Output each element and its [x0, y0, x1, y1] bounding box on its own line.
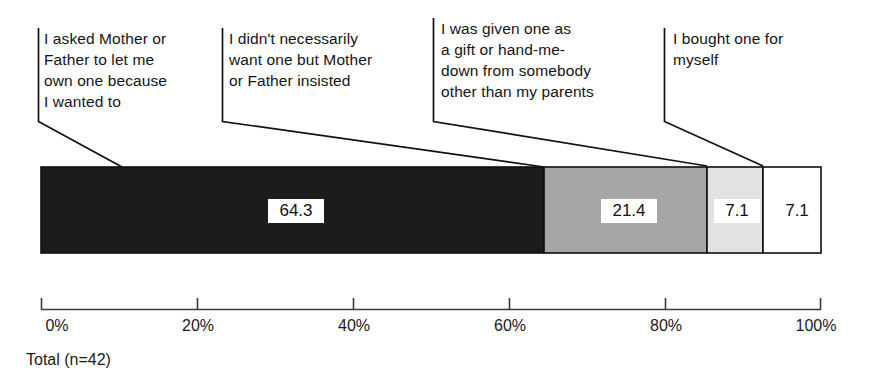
bar-value-3: 7.1	[714, 199, 760, 223]
callout-label-2: I didn't necessarily want one but Mother…	[229, 28, 425, 91]
bar-segments	[41, 167, 821, 253]
axis-label-60: 60%	[475, 316, 545, 335]
bar-value-2: 21.4	[601, 199, 657, 223]
axis-label-100: 100%	[781, 316, 851, 335]
callout-label-3: I was given one as a gift or hand-me- do…	[441, 18, 653, 102]
axis-label-20: 20%	[163, 316, 233, 335]
stacked-bar-chart: I asked Mother or Father to let me own o…	[0, 0, 882, 391]
axis-label-40: 40%	[319, 316, 389, 335]
callout-label-4: I bought one for myself	[673, 28, 833, 70]
callout-label-1: I asked Mother or Father to let me own o…	[44, 28, 220, 112]
total-count-label: Total (n=42)	[26, 350, 111, 369]
axis-label-80: 80%	[631, 316, 701, 335]
x-axis	[41, 298, 821, 310]
axis-label-0: 0%	[22, 316, 92, 335]
bar-value-1: 64.3	[268, 199, 324, 223]
bar-value-4: 7.1	[774, 199, 820, 223]
